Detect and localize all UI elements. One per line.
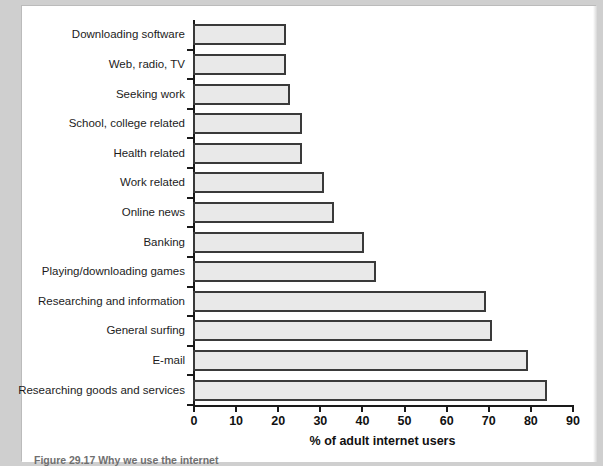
x-axis-line xyxy=(193,405,574,407)
category-label: Playing/downloading games xyxy=(42,261,185,282)
bar-row: General surfing xyxy=(193,316,572,346)
x-axis-tick-label: 0 xyxy=(191,414,198,428)
bar xyxy=(193,232,364,253)
bar xyxy=(193,380,547,401)
x-axis-tick-label: 60 xyxy=(440,414,454,428)
scanned-page: Downloading softwareWeb, radio, TVSeekin… xyxy=(22,6,597,462)
category-label: Downloading software xyxy=(72,24,185,45)
category-label: School, college related xyxy=(69,113,185,134)
bar-row: Online news xyxy=(193,198,572,228)
x-axis-tick xyxy=(404,405,406,412)
x-axis-tick xyxy=(572,405,574,412)
category-label: General surfing xyxy=(106,320,185,341)
x-axis-tick xyxy=(277,405,279,412)
category-label: Banking xyxy=(143,232,185,253)
bar xyxy=(193,172,324,193)
x-axis-tick-label: 80 xyxy=(524,414,538,428)
x-axis-tick-label: 90 xyxy=(566,414,580,428)
x-axis-tick-label: 30 xyxy=(313,414,327,428)
category-label: Health related xyxy=(113,143,185,164)
bar-row: Downloading software xyxy=(193,20,572,50)
bar-row: Researching goods and services xyxy=(193,375,572,405)
x-axis-title: % of adult internet users xyxy=(193,434,572,448)
x-axis-tick xyxy=(446,405,448,412)
x-axis-tick xyxy=(361,405,363,412)
category-label: Seeking work xyxy=(116,84,185,105)
bar xyxy=(193,202,334,223)
bar xyxy=(193,291,486,312)
bar xyxy=(193,261,376,282)
bar xyxy=(193,350,528,371)
bar-row: Work related xyxy=(193,168,572,198)
bar-row: Playing/downloading games xyxy=(193,257,572,287)
x-axis-tick-label: 50 xyxy=(398,414,412,428)
bar xyxy=(193,24,286,45)
x-axis-tick xyxy=(193,405,195,412)
bar-row: Health related xyxy=(193,138,572,168)
x-axis-tick-label: 10 xyxy=(229,414,243,428)
figure-chart: Downloading softwareWeb, radio, TVSeekin… xyxy=(22,6,597,446)
category-label: Work related xyxy=(120,172,185,193)
figure-caption: Figure 29.17 Why we use the internet xyxy=(34,454,218,466)
x-axis-tick xyxy=(488,405,490,412)
bar-row: Seeking work xyxy=(193,79,572,109)
category-label: Researching goods and services xyxy=(18,380,185,401)
bar xyxy=(193,54,286,75)
x-axis-tick xyxy=(530,405,532,412)
bar xyxy=(193,84,290,105)
category-label: Online news xyxy=(122,202,185,223)
x-axis-tick-label: 70 xyxy=(482,414,496,428)
bar-row: Web, radio, TV xyxy=(193,50,572,80)
bar xyxy=(193,320,492,341)
bar xyxy=(193,143,302,164)
x-axis-tick-label: 40 xyxy=(355,414,369,428)
category-label: Researching and information xyxy=(38,291,185,312)
bar-row: School, college related xyxy=(193,109,572,139)
bar-row: Banking xyxy=(193,227,572,257)
category-label: Web, radio, TV xyxy=(109,54,185,75)
bar-row: E-mail xyxy=(193,346,572,376)
x-axis-tick xyxy=(319,405,321,412)
category-label: E-mail xyxy=(152,350,185,371)
x-axis-tick-label: 20 xyxy=(271,414,285,428)
x-axis-tick xyxy=(235,405,237,412)
bar xyxy=(193,113,302,134)
bar-row: Researching and information xyxy=(193,287,572,317)
plot-area: Downloading softwareWeb, radio, TVSeekin… xyxy=(193,20,572,405)
